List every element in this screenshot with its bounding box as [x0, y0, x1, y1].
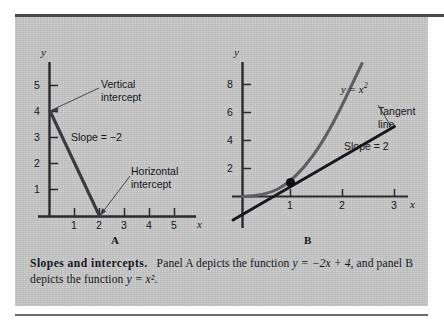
panel-b-xtick-3: 3	[391, 199, 397, 211]
panel-b-y-axis-label: y	[234, 46, 239, 58]
panel-b-ytick-8: 8	[227, 78, 233, 90]
panel-b-tangency-point	[286, 178, 295, 187]
panel-b-x-axis-label: x	[410, 198, 415, 210]
panel-b-ytick-6: 6	[227, 106, 233, 118]
figure-container: y x 5 4 3 2 1 1 2 3 4 5 Vertical interce…	[0, 0, 444, 327]
caption-text-1: Panel A depicts the function	[157, 257, 293, 270]
panel-b-curve-equation-exponent: 2	[364, 81, 368, 90]
caption-equation-b: y = x²	[126, 273, 154, 286]
panel-b-annotation-tangent-line1: Tangent	[378, 105, 415, 118]
panel-b-annotation-tangent-line2: line	[378, 118, 415, 131]
caption-lead-in: Slopes and intercepts.	[30, 257, 148, 270]
figure-caption: Slopes and intercepts.Panel A depicts th…	[30, 256, 415, 287]
panel-b-annotation-tangent-line: Tangent line	[378, 105, 415, 130]
panel-b-ytick-2: 2	[227, 162, 233, 174]
panel-b-ytick-4: 4	[227, 134, 233, 146]
panel-b-label: B	[304, 234, 311, 246]
caption-equation-a: y = −2x + 4	[292, 257, 350, 270]
panel-b-xtick-1: 1	[287, 199, 293, 211]
panel-b-y-ticks	[243, 85, 251, 169]
panel-b-annotation-slope: Slope = 2	[344, 140, 389, 152]
panel-b-curve-equation-base: y = x	[341, 83, 364, 95]
panel-b-xtick-2: 2	[339, 199, 345, 211]
panel-b-annotation-curve-equation: y = x2	[341, 81, 368, 95]
caption-period: .	[154, 273, 157, 286]
